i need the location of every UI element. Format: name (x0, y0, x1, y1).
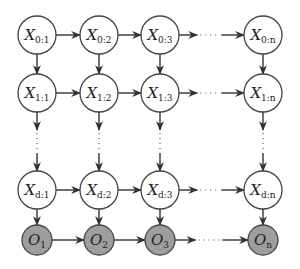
graphical-model-diagram: X0:1X0:2X0:3X0:nX1:1X1:2X1:3X1:nXd:1Xd:2… (0, 0, 300, 269)
node-o-1: O1 (22, 225, 52, 255)
nodes-layer: X0:1X0:2X0:3X0:nX1:1X1:2X1:3X1:nXd:1Xd:2… (18, 16, 282, 255)
edges-layer (37, 35, 263, 240)
node-x1-2: X1:2 (80, 74, 118, 112)
node-xd-3: Xd:3 (141, 171, 179, 209)
node-x1-n: X1:n (244, 74, 282, 112)
node-x1-3: X1:3 (141, 74, 179, 112)
node-xd-n: Xd:n (244, 171, 282, 209)
node-x0-1: X0:1 (18, 16, 56, 54)
node-o-n: On (248, 225, 278, 255)
node-o-3: O3 (145, 225, 175, 255)
node-xd-2: Xd:2 (80, 171, 118, 209)
node-x0-2: X0:2 (80, 16, 118, 54)
node-x1-1: X1:1 (18, 74, 56, 112)
node-xd-1: Xd:1 (18, 171, 56, 209)
node-o-2: O2 (84, 225, 114, 255)
node-x0-3: X0:3 (141, 16, 179, 54)
node-x0-n: X0:n (244, 16, 282, 54)
